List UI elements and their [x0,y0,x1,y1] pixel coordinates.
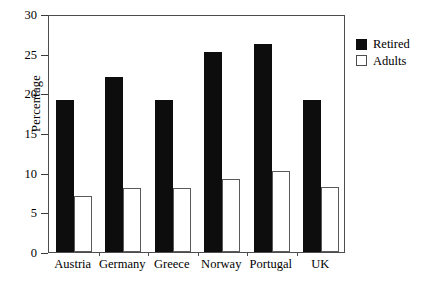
y-axis-tick [41,174,48,175]
bar-group [247,16,297,252]
bar-group [198,16,248,252]
legend-swatch-outlined-square-icon [356,55,367,66]
x-axis-label: Greece [154,257,189,272]
bar-adults [321,187,339,252]
bar-retired [204,52,222,252]
y-axis-tick [41,15,48,16]
x-axis-label: Norway [201,257,241,272]
y-axis-tick-label: 15 [0,128,37,141]
legend-swatch-filled-square-icon [356,39,367,50]
x-axis-label: Germany [99,257,146,272]
bar-group [297,16,347,252]
y-axis-tick [41,213,48,214]
bar-adults [74,196,92,252]
y-axis-tick [41,94,48,95]
bar-adults [222,179,240,252]
y-axis-tick-label: 25 [0,48,37,61]
y-axis-tick-label: 0 [0,247,37,260]
bar-group [99,16,149,252]
y-axis-tick [41,134,48,135]
bar-adults [272,171,290,252]
legend-item-adults: Adults [356,55,410,68]
bar-adults [173,188,191,252]
legend-label-retired: Retired [373,38,410,51]
bar-retired [56,100,74,252]
y-axis-tick [41,55,48,56]
x-axis-tick [99,252,100,256]
y-axis-tick-label: 10 [0,167,37,180]
bar-retired [155,100,173,252]
legend-item-retired: Retired [356,38,410,51]
y-axis-tick-label: 30 [0,9,37,22]
bar-group [148,16,198,252]
x-axis-tick [297,252,298,256]
plot-area [48,15,345,253]
bar-group [49,16,99,252]
y-axis-tick [41,253,48,254]
legend-label-adults: Adults [373,55,406,68]
bar-chart-figure: Percentage 302520151050 AustriaGermanyGr… [0,0,421,288]
bar-retired [303,100,321,252]
bar-retired [105,77,123,252]
bar-adults [123,188,141,252]
x-axis-tick [247,252,248,256]
x-axis-label: Portugal [250,257,292,272]
x-axis-label: UK [311,257,329,272]
y-axis-tick-label: 5 [0,207,37,220]
legend: Retired Adults [356,38,410,67]
bar-retired [254,44,272,252]
x-axis-label: Austria [54,257,91,272]
x-axis-tick [198,252,199,256]
x-axis-tick [148,252,149,256]
y-axis-tick-label: 20 [0,88,37,101]
